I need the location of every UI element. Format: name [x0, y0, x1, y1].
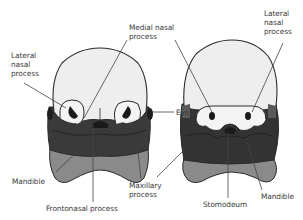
- label-maxillary-process: Maxillary process: [129, 181, 161, 199]
- label-eye: Eye: [176, 108, 189, 117]
- label-medial-nasal-process: Medial nasal process: [129, 23, 174, 41]
- right-head: [184, 40, 277, 110]
- label-left-mandible: Mandible: [12, 177, 45, 186]
- label-right-mandible: Mandible: [261, 192, 294, 201]
- right-embryo-figure: [180, 40, 278, 183]
- label-frontonasal-process: Frontonasal process: [46, 204, 118, 213]
- left-embryo-figure: [47, 48, 153, 183]
- embryo-face-diagram: Lateral nasal process Medial nasal proce…: [0, 0, 303, 220]
- label-left-lateral-nasal-process: Lateral nasal process: [11, 51, 39, 78]
- label-right-lateral-nasal-process: Lateral nasal process: [264, 9, 292, 36]
- label-stomodeum: Stomodeum: [203, 200, 247, 209]
